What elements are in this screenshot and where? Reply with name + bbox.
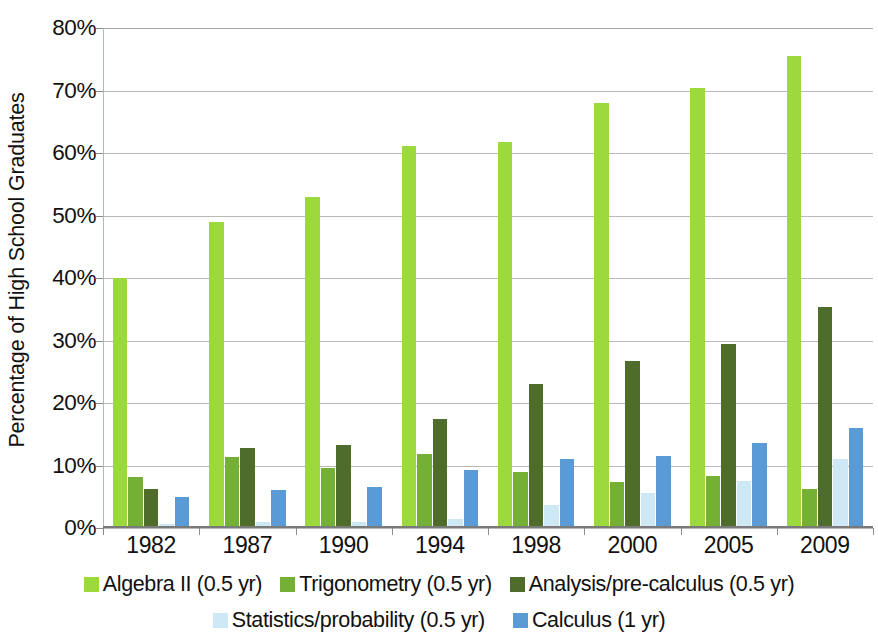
bar xyxy=(367,487,382,528)
legend-swatch-icon xyxy=(510,577,525,592)
legend-item[interactable]: Statistics/probability (0.5 yr) xyxy=(213,608,485,633)
bar-group xyxy=(681,28,777,528)
bar xyxy=(209,222,224,528)
y-tick-mark xyxy=(96,466,103,467)
bar xyxy=(641,493,656,528)
legend-label: Trigonometry (0.5 yr) xyxy=(299,572,492,597)
x-tick-label: 1994 xyxy=(392,532,488,559)
bar xyxy=(802,489,817,528)
bar-group xyxy=(103,28,199,528)
y-tick-label: 30% xyxy=(28,328,96,354)
legend-swatch-icon xyxy=(280,577,295,592)
bar xyxy=(610,482,625,528)
bar xyxy=(498,142,513,528)
x-tick-label: 2000 xyxy=(584,532,680,559)
bar xyxy=(721,344,736,528)
legend-item[interactable]: Trigonometry (0.5 yr) xyxy=(280,572,492,597)
x-tick-label: 1987 xyxy=(199,532,295,559)
bar-chart: Percentage of High School Graduates 0%10… xyxy=(0,0,878,640)
bar xyxy=(128,477,143,528)
y-tick-mark xyxy=(96,278,103,279)
bar xyxy=(225,457,240,528)
y-tick-mark xyxy=(96,91,103,92)
bar xyxy=(305,197,320,528)
x-tick-mark xyxy=(873,528,874,535)
bar-group xyxy=(488,28,584,528)
legend-label: Algebra II (0.5 yr) xyxy=(103,572,262,597)
y-tick-label: 80% xyxy=(28,15,96,41)
bar xyxy=(464,470,479,528)
bar-group xyxy=(777,28,873,528)
y-tick-label: 60% xyxy=(28,140,96,166)
bar xyxy=(833,459,848,528)
y-tick-mark xyxy=(96,28,103,29)
bar xyxy=(271,490,286,528)
y-tick-label: 0% xyxy=(28,515,96,541)
plot-area xyxy=(103,28,873,528)
y-tick-label: 40% xyxy=(28,265,96,291)
bar xyxy=(787,56,802,529)
bar xyxy=(656,456,671,529)
x-tick-label: 1982 xyxy=(103,532,199,559)
legend-swatch-icon xyxy=(84,577,99,592)
bar xyxy=(513,472,528,528)
legend-item[interactable]: Calculus (1 yr) xyxy=(513,608,665,633)
bar xyxy=(336,445,351,528)
bar xyxy=(818,307,833,528)
y-tick-mark xyxy=(96,403,103,404)
bar-group xyxy=(296,28,392,528)
bar xyxy=(240,448,255,528)
bar xyxy=(433,419,448,528)
bar xyxy=(529,384,544,528)
legend-row-secondary: Statistics/probability (0.5 yr)Calculus … xyxy=(0,602,878,638)
legend-row-primary: Algebra II (0.5 yr)Trigonometry (0.5 yr)… xyxy=(0,566,878,602)
legend-swatch-icon xyxy=(213,613,228,628)
legend-item[interactable]: Algebra II (0.5 yr) xyxy=(84,572,262,597)
bar xyxy=(144,489,159,528)
bar xyxy=(706,476,721,529)
bars-layer xyxy=(103,28,873,528)
bar xyxy=(560,459,575,528)
bar xyxy=(625,361,640,528)
x-tick-label: 1998 xyxy=(488,532,584,559)
y-tick-label: 20% xyxy=(28,390,96,416)
x-axis-line xyxy=(103,526,873,528)
legend-label: Calculus (1 yr) xyxy=(532,608,665,633)
bar-group xyxy=(584,28,680,528)
y-tick-mark xyxy=(96,216,103,217)
y-axis-tick-labels: 0%10%20%30%40%50%60%70%80% xyxy=(28,0,96,545)
bar xyxy=(594,103,609,528)
y-tick-mark xyxy=(96,341,103,342)
bar xyxy=(402,146,417,529)
x-tick-label: 1990 xyxy=(296,532,392,559)
legend-label: Analysis/pre-calculus (0.5 yr) xyxy=(529,572,795,597)
x-axis-tick-labels: 19821987199019941998200020052009 xyxy=(103,532,873,566)
bar xyxy=(544,505,559,528)
legend-label: Statistics/probability (0.5 yr) xyxy=(232,608,485,633)
bar xyxy=(849,428,864,528)
y-tick-label: 70% xyxy=(28,78,96,104)
x-tick-label: 2009 xyxy=(777,532,873,559)
bar-group xyxy=(392,28,488,528)
legend-swatch-icon xyxy=(513,613,528,628)
y-tick-label: 10% xyxy=(28,453,96,479)
chart-legend: Algebra II (0.5 yr)Trigonometry (0.5 yr)… xyxy=(0,566,878,638)
bar xyxy=(690,88,705,528)
bar xyxy=(113,278,128,528)
bar-group xyxy=(199,28,295,528)
y-tick-label: 50% xyxy=(28,203,96,229)
bar xyxy=(175,497,190,528)
x-tick-label: 2005 xyxy=(681,532,777,559)
y-tick-mark xyxy=(96,528,103,529)
bar xyxy=(737,481,752,529)
bar xyxy=(752,443,767,528)
bar xyxy=(321,468,336,528)
y-tick-mark xyxy=(96,153,103,154)
legend-item[interactable]: Analysis/pre-calculus (0.5 yr) xyxy=(510,572,795,597)
bar xyxy=(417,454,432,528)
